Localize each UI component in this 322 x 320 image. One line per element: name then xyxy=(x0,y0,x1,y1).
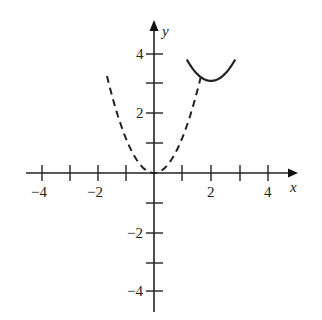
graph: −4 −2 2 4 x 4 2 −2 −4 y xyxy=(0,0,322,320)
y-axis-arrow-icon xyxy=(150,20,159,31)
x-tick-label-neg4: −4 xyxy=(31,184,47,200)
y-tick-label-neg4: −4 xyxy=(127,283,143,299)
x-axis-label: x xyxy=(289,179,297,195)
x-tick-label-4: 4 xyxy=(264,184,272,200)
y-tick-label-4: 4 xyxy=(136,46,144,62)
x-tick-label-neg2: −2 xyxy=(87,184,103,200)
x-tick-label-2: 2 xyxy=(207,184,215,200)
x-axis-arrow-icon xyxy=(288,169,298,178)
y-tick-label-neg2: −2 xyxy=(127,225,143,241)
axes xyxy=(26,30,292,312)
y-axis-label: y xyxy=(160,23,169,39)
solid-parabola-curve xyxy=(187,60,235,81)
y-tick-label-2: 2 xyxy=(136,105,144,121)
